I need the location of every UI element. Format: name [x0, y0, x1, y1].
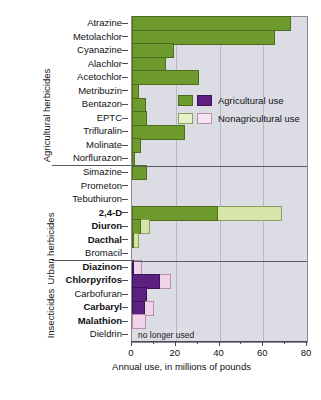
y-axis-tick [122, 36, 128, 37]
category-label: Acetochlor [77, 70, 122, 84]
y-axis-tick [122, 253, 128, 254]
bar-row [132, 180, 307, 194]
y-axis-tick [122, 118, 128, 119]
category-label: 2,4-D [99, 206, 122, 220]
x-axis-tick-label: 20 [160, 347, 190, 358]
x-axis-tick-label: 80 [291, 347, 321, 358]
category-label: Chlorpyrifos [66, 273, 122, 287]
group-label-insecticides: Insecticides [45, 279, 56, 349]
y-axis-tick [122, 280, 128, 281]
y-axis-tick [122, 131, 128, 132]
bar-row [132, 44, 307, 58]
category-label: Simazine [83, 165, 122, 179]
category-label: Metribuzin [78, 84, 122, 98]
category-label: Dieldrin [90, 327, 122, 341]
bar-row [132, 315, 307, 329]
category-label: Atrazine [87, 16, 122, 30]
legend-swatch-nonagricultural-purple-icon [197, 113, 212, 124]
category-label: Trifluralin [83, 124, 122, 138]
legend-swatch-nonagricultural-green-icon [178, 113, 193, 124]
legend: Agricultural use Nonagricultural use [178, 93, 300, 129]
y-axis-tick [122, 185, 128, 186]
chart-figure: no longer used AtrazineMetolachlorCyanaz… [0, 0, 321, 400]
annotation-no-longer-used: no longer used [138, 330, 194, 340]
x-axis-tick [306, 341, 307, 346]
legend-swatch-agricultural-green-icon [178, 95, 193, 106]
group-label-line-1: Agricultural herbicides [41, 56, 52, 176]
bar-row [132, 247, 307, 261]
category-label: Bromacil [85, 246, 122, 260]
bar-row [132, 193, 307, 207]
bar-agricultural [132, 165, 147, 180]
bar-rows: no longer used [132, 17, 307, 342]
category-label: Carbaryl [83, 300, 122, 314]
y-axis-tick [122, 307, 128, 308]
x-axis-tick [131, 341, 132, 346]
bar-row [132, 288, 307, 302]
y-axis-tick [122, 104, 128, 105]
x-axis-tick-label: 60 [247, 347, 277, 358]
legend-row-nonagricultural: Nonagricultural use [178, 111, 300, 126]
y-axis-tick [122, 212, 128, 213]
bar-row [132, 17, 307, 31]
section-divider-urban-insecticides [132, 261, 307, 262]
bar-row [132, 207, 307, 221]
category-label: EPTC [97, 111, 122, 125]
category-label: Prometon [81, 179, 122, 193]
group-label-line-3: Insecticides [45, 279, 56, 349]
category-label: Diuron [91, 219, 122, 233]
group-rule-1 [52, 165, 131, 166]
y-axis-tick [122, 145, 128, 146]
group-label-agricultural-herbicides: Agricultural herbicides [41, 56, 52, 176]
x-axis-tick [262, 341, 263, 346]
x-axis-tick-label: 40 [204, 347, 234, 358]
bar-row [132, 234, 307, 248]
category-label: Norflurazon [73, 151, 122, 165]
y-axis-tick [122, 158, 128, 159]
y-axis-tick [122, 267, 128, 268]
bar-row: no longer used [132, 328, 307, 342]
y-axis-tick [122, 334, 128, 335]
bar-row [132, 71, 307, 85]
category-label: Dacthal [88, 233, 122, 247]
bar-nonagricultural [132, 314, 146, 329]
y-axis-tick [122, 63, 128, 64]
y-axis-tick [122, 239, 128, 240]
category-label: Alachlor [88, 57, 122, 71]
y-axis-tick [122, 77, 128, 78]
category-label: Diazinon [82, 260, 122, 274]
bar-row [132, 301, 307, 315]
bar-row [132, 220, 307, 234]
bar-agricultural [132, 70, 199, 85]
y-axis-tick [122, 294, 128, 295]
legend-label-agricultural: Agricultural use [218, 95, 283, 106]
bar-row [132, 58, 307, 72]
bar-row [132, 261, 307, 275]
section-divider-agricultural-urban [132, 166, 307, 167]
bar-row [132, 139, 307, 153]
x-axis-minor-tick [284, 341, 285, 344]
bar-row [132, 166, 307, 180]
plot-area: no longer used [131, 16, 308, 343]
y-axis-tick [122, 172, 128, 173]
category-label: Cyanazine [77, 43, 122, 57]
bar-row [132, 152, 307, 166]
category-label: Bentazon [82, 97, 122, 111]
y-axis-tick [122, 321, 128, 322]
y-axis-tick [122, 23, 128, 24]
x-axis-minor-tick [240, 341, 241, 344]
bar-row [132, 274, 307, 288]
group-rule-2 [52, 260, 131, 261]
x-axis-title-wrap: Annual use, in millions of pounds [0, 361, 321, 372]
category-label: Metolachlor [73, 30, 122, 44]
category-label: Tebuthiuron [72, 192, 122, 206]
y-axis-tick [122, 50, 128, 51]
y-axis-tick [122, 226, 128, 227]
category-label: Carbofuran [74, 287, 122, 301]
legend-label-nonagricultural: Nonagricultural use [218, 113, 300, 124]
y-axis-tick [122, 90, 128, 91]
bar-agricultural [132, 233, 134, 248]
x-axis-minor-tick [197, 341, 198, 344]
category-label: Molinate [86, 138, 122, 152]
bar-row [132, 31, 307, 45]
